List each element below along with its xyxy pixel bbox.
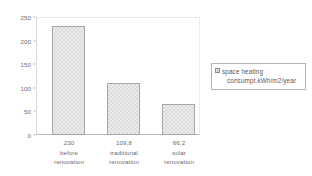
- y-tick-label-50: 50: [24, 108, 31, 115]
- y-axis: 250 200 150 100 50 0: [0, 17, 36, 135]
- x-category-solar-renovation: 66,2 solar renovation: [146, 138, 212, 167]
- bar-chart: 250 200 150 100 50 0 230 before renovati…: [0, 0, 312, 176]
- y-tick-label-0: 0: [27, 132, 31, 139]
- y-tick-label-100: 100: [20, 84, 31, 91]
- x-axis: 230 before renovation 109,8 traditional …: [36, 138, 200, 174]
- bar-traditional-renovation[interactable]: [107, 83, 140, 135]
- y-tick-label-200: 200: [20, 37, 31, 44]
- legend-label: space heating consumpt.kWh/m2/year: [222, 67, 296, 85]
- x-value-label: 66,2: [146, 138, 212, 148]
- legend-entry: space heating consumpt.kWh/m2/year: [215, 67, 302, 85]
- pattern-swatch-icon: [215, 68, 220, 73]
- y-tick-label-150: 150: [20, 61, 31, 68]
- x-category-line1: solar: [146, 148, 212, 158]
- x-category-line2: renovation: [146, 157, 212, 167]
- legend-label-line1: space heating: [222, 68, 263, 75]
- chart-legend[interactable]: space heating consumpt.kWh/m2/year: [211, 63, 306, 90]
- bars-layer: [36, 17, 200, 135]
- bar-solar-renovation[interactable]: [162, 104, 195, 135]
- y-tick-label-250: 250: [20, 14, 31, 21]
- bar-before-renovation[interactable]: [52, 26, 85, 135]
- legend-label-line2: consumpt.kWh/m2/year: [222, 76, 296, 85]
